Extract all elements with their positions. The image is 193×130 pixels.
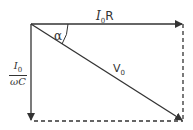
horizontal-label-suffix: R [105, 9, 113, 23]
horizontal-label: I0R [96, 10, 114, 25]
diagonal-label-sub: 0 [121, 69, 125, 77]
vertical-label: I0 ωC [9, 61, 27, 87]
diagonal-label: V0 [113, 63, 125, 77]
angle-symbol: α [54, 29, 62, 43]
angle-label: α [54, 30, 62, 42]
diagonal-label-main: V [113, 62, 121, 75]
vertical-label-numerator: I0 [9, 61, 27, 74]
angle-arc [62, 24, 68, 44]
vertical-label-numerator-sub: 0 [18, 66, 22, 74]
vertical-label-denominator: ωC [9, 77, 27, 87]
